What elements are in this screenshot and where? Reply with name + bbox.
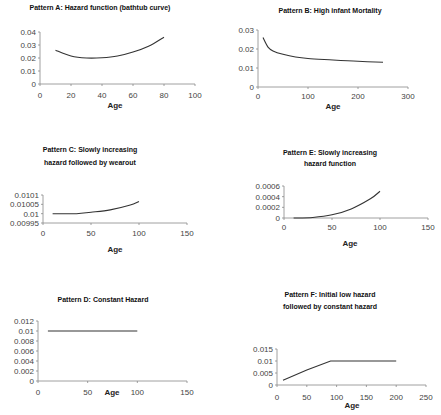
x-tick-label: 150 (421, 223, 435, 232)
x-tick-label: 50 (87, 229, 96, 238)
chart-pattern-f: Pattern F: Initial low hazardfollowed by… (253, 291, 433, 410)
x-tick-label: 40 (98, 91, 107, 100)
hazard-curve (53, 202, 139, 214)
y-tick-label: 0.012 (14, 317, 35, 326)
x-tick-label: 100 (132, 229, 146, 238)
chart-title: Pattern D: Constant Hazard (57, 296, 148, 303)
y-tick-label: 0 (250, 83, 255, 92)
y-tick-label: 0 (30, 377, 35, 386)
y-tick-label: 0.004 (14, 357, 35, 366)
chart-pattern-e: Pattern E: Slowly increasinghazard funct… (256, 149, 436, 248)
y-tick-label: 0.04 (20, 28, 36, 37)
y-tick-label: 0 (269, 381, 274, 390)
y-tick-label: 0.01 (18, 327, 34, 336)
chart-title: Pattern B: High infant Mortality (278, 7, 381, 15)
chart-title: Pattern E: Slowly increasing (283, 149, 377, 157)
x-axis-label: Age (342, 239, 358, 248)
x-axis-label: Age (344, 401, 360, 410)
y-tick-label: 0.015 (253, 345, 274, 354)
y-tick-label: 0.01 (238, 64, 254, 73)
chart-pattern-c: Pattern C: Slowly increasinghazard follo… (10, 146, 194, 254)
x-tick-label: 150 (180, 229, 194, 238)
y-tick-label: 0.00995 (10, 219, 39, 228)
chart-title: hazard function (304, 160, 356, 167)
x-tick-label: 150 (180, 388, 194, 397)
x-tick-label: 50 (302, 393, 311, 402)
y-tick-label: 0.01 (257, 357, 273, 366)
x-tick-label: 20 (67, 91, 76, 100)
y-tick-label: 0 (276, 214, 281, 223)
x-tick-label: 250 (419, 393, 433, 402)
x-tick-label: 80 (160, 91, 169, 100)
y-tick-label: 0.02 (20, 54, 36, 63)
y-tick-label: 0.01005 (10, 200, 39, 209)
x-axis-label: Age (107, 245, 123, 254)
y-tick-label: 0.03 (238, 26, 254, 35)
y-tick-label: 0.01 (20, 67, 36, 76)
x-axis-label: Age (325, 102, 341, 111)
y-tick-label: 0.002 (14, 367, 35, 376)
y-tick-label: 0.006 (14, 347, 35, 356)
x-tick-label: 0 (38, 91, 43, 100)
x-axis-label: Age (107, 101, 123, 110)
chart-title: followed by constant hazard (283, 303, 377, 311)
x-tick-label: 100 (301, 92, 315, 101)
y-tick-label: 0.01 (23, 210, 39, 219)
chart-title: hazard followed by wearout (44, 159, 136, 167)
y-tick-label: 0.005 (253, 369, 274, 378)
x-tick-label: 50 (328, 223, 337, 232)
x-tick-label: 0 (41, 229, 46, 238)
x-tick-label: 0 (36, 388, 41, 397)
x-tick-label: 200 (351, 92, 365, 101)
y-tick-label: 0.0101 (15, 191, 40, 200)
y-tick-label: 0.008 (14, 337, 35, 346)
hazard-curve (56, 37, 165, 58)
x-tick-label: 60 (129, 91, 138, 100)
chart-title: Pattern C: Slowly increasing (43, 146, 138, 154)
chart-pattern-a: Pattern A: Hazard function (bathtub curv… (20, 4, 202, 110)
y-tick-label: 0 (32, 80, 37, 89)
x-tick-label: 100 (188, 91, 202, 100)
y-tick-label: 0.0002 (256, 203, 281, 212)
hazard-curve (294, 191, 380, 218)
chart-title: Pattern F: Initial low hazard (284, 291, 375, 298)
y-tick-label: 0.0006 (256, 182, 281, 191)
hazard-curve (283, 361, 396, 380)
x-tick-label: 0 (256, 92, 261, 101)
x-tick-label: 150 (360, 393, 374, 402)
chart-title: Pattern A: Hazard function (bathtub curv… (30, 4, 171, 12)
x-tick-label: 100 (330, 393, 344, 402)
x-tick-label: 50 (83, 388, 92, 397)
y-tick-label: 0.03 (20, 41, 36, 50)
y-tick-label: 0.0004 (256, 193, 281, 202)
x-tick-label: 0 (282, 223, 287, 232)
x-axis-label: Age (104, 388, 120, 397)
x-tick-label: 100 (373, 223, 387, 232)
x-tick-label: 200 (390, 393, 404, 402)
hazard-curve (263, 38, 383, 63)
hazard-patterns-figure: Pattern A: Hazard function (bathtub curv… (0, 0, 441, 415)
x-tick-label: 300 (401, 92, 415, 101)
chart-pattern-d: Pattern D: Constant Hazard00.0020.0040.0… (14, 296, 194, 397)
y-tick-label: 0.02 (238, 45, 254, 54)
x-tick-label: 100 (131, 388, 145, 397)
chart-pattern-b: Pattern B: High infant Mortality00.010.0… (238, 7, 415, 111)
x-tick-label: 0 (275, 393, 280, 402)
